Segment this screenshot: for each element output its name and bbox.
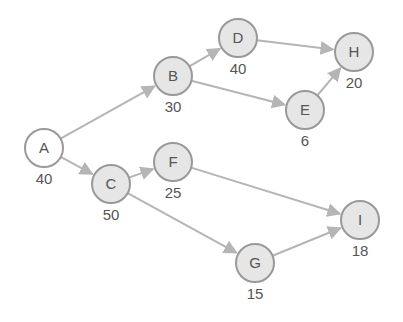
edge-d-h xyxy=(257,40,333,49)
node-weight: 18 xyxy=(352,242,369,259)
node-d: D40 xyxy=(219,19,257,77)
node-weight: 40 xyxy=(230,60,247,77)
node-label: C xyxy=(106,175,117,192)
node-weight: 50 xyxy=(103,206,120,223)
node-label: G xyxy=(249,254,261,271)
edge-f-i xyxy=(191,168,340,214)
edge-e-h xyxy=(317,68,340,95)
node-weight: 40 xyxy=(36,170,53,187)
node-weight: 25 xyxy=(165,184,182,201)
node-weight: 30 xyxy=(165,98,182,115)
node-label: A xyxy=(39,139,49,156)
node-label: F xyxy=(168,153,177,170)
node-label: D xyxy=(233,29,244,46)
node-label: B xyxy=(168,67,178,84)
edges-layer xyxy=(61,40,341,256)
node-h: H20 xyxy=(335,33,373,91)
node-e: E6 xyxy=(286,91,324,149)
node-label: H xyxy=(349,43,360,60)
network-diagram: A40B30D40H20E6C50F25G15I18 xyxy=(0,0,403,322)
node-a: A40 xyxy=(25,129,63,187)
node-label: E xyxy=(300,101,310,118)
node-weight: 15 xyxy=(247,285,264,302)
node-b: B30 xyxy=(154,57,192,115)
node-c: C50 xyxy=(92,165,130,223)
node-label: I xyxy=(358,211,362,228)
node-weight: 20 xyxy=(346,74,363,91)
node-weight: 6 xyxy=(301,132,309,149)
edge-b-e xyxy=(191,81,284,105)
edge-b-d xyxy=(189,49,219,67)
nodes-layer: A40B30D40H20E6C50F25G15I18 xyxy=(25,19,379,302)
edge-a-b xyxy=(61,86,155,139)
node-g: G15 xyxy=(236,244,274,302)
edge-g-i xyxy=(273,228,341,256)
node-i: I18 xyxy=(341,201,379,259)
edge-c-g xyxy=(128,193,237,253)
node-f: F25 xyxy=(154,143,192,201)
edge-c-f xyxy=(129,169,153,178)
edge-a-c xyxy=(61,157,93,174)
